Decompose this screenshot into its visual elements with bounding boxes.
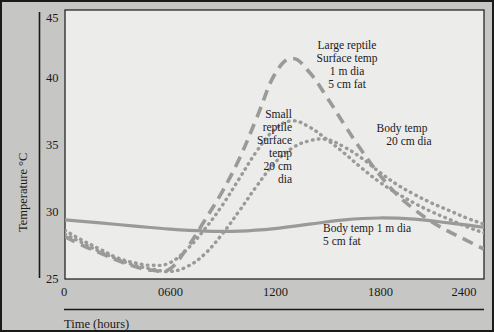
annotation-line: reptile <box>263 121 292 134</box>
annotation-line: temp <box>269 147 292 160</box>
y-tick-label: 35 <box>46 138 59 152</box>
annotation-line: 20 cm dia <box>386 135 431 147</box>
chart-figure: 45 40 35 30 25 0 0600 1200 1800 2400 Tem… <box>0 0 494 332</box>
annotation-line: 5 cm fat <box>328 78 366 90</box>
annotation-line: 20 cm <box>264 160 292 172</box>
x-tick-label: 1200 <box>263 285 288 299</box>
annotation-line: Surface <box>257 134 292 146</box>
annotation-line: Large reptile <box>318 39 377 52</box>
x-tick-label: 0 <box>61 285 67 299</box>
y-tick-label: 30 <box>46 205 59 219</box>
annotation-line: Surface temp <box>317 52 378 65</box>
x-axis-title: Time (hours) <box>64 317 129 331</box>
annotation-line: 1 m dia <box>330 65 365 77</box>
y-tick-label: 25 <box>46 272 59 286</box>
annotation-line: dia <box>278 173 292 185</box>
y-tick-label: 40 <box>46 71 59 85</box>
y-tick-label: 45 <box>46 11 59 25</box>
x-tick-label: 0600 <box>158 285 183 299</box>
annotation-line: 5 cm fat <box>323 235 361 247</box>
annotation-line: Body temp <box>377 122 428 135</box>
annotation-line: Small <box>265 108 292 120</box>
x-tick-label: 2400 <box>452 285 477 299</box>
x-tick-label: 1800 <box>368 285 393 299</box>
y-tick-labels: 45 40 35 30 25 <box>46 11 59 286</box>
annotation-line: Body temp 1 m dia <box>323 222 411 235</box>
x-tick-labels: 0 0600 1200 1800 2400 <box>61 285 477 299</box>
chart-canvas: 45 40 35 30 25 0 0600 1200 1800 2400 Tem… <box>2 2 494 332</box>
y-axis-title: Temperature °C <box>16 153 30 232</box>
